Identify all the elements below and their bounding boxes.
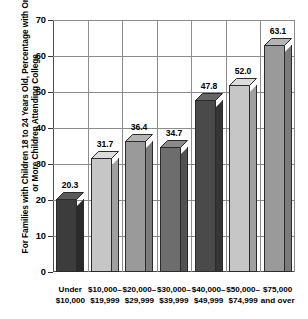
bar-front-face	[125, 141, 146, 272]
bar-side-face	[112, 158, 119, 272]
y-tick-label: 60	[22, 51, 46, 61]
y-tick-mark	[48, 92, 53, 93]
gridline-vertical	[157, 20, 158, 272]
gridline-horizontal	[53, 92, 295, 93]
bar-front-face	[160, 147, 181, 272]
y-tick-label: 70	[22, 15, 46, 25]
bar-side-face	[285, 45, 292, 272]
plot-area: 010203040506070 20.331.736.434.747.852.0…	[53, 20, 295, 272]
x-tick-label-line: and over	[254, 296, 302, 307]
y-tick-mark	[48, 128, 53, 129]
y-tick-label: 50	[22, 87, 46, 97]
y-tick-mark	[48, 20, 53, 21]
bar-side-face	[77, 199, 84, 272]
bar-top-face	[56, 192, 84, 200]
bar-side-face	[250, 85, 257, 272]
bar	[264, 38, 292, 272]
bar	[125, 134, 153, 272]
x-axis-tick-labels: Under$10,000$10,000–$19,999$20,000–$29,9…	[53, 285, 295, 315]
bar-top-face	[125, 134, 153, 142]
bar	[91, 151, 119, 272]
bar-value-label: 52.0	[226, 66, 260, 76]
y-tick-mark	[48, 56, 53, 57]
gridline-vertical	[122, 20, 123, 272]
bar-front-face	[56, 199, 77, 272]
y-tick-mark	[48, 164, 53, 165]
y-tick-mark	[48, 236, 53, 237]
bar-value-label: 31.7	[88, 139, 122, 149]
y-tick-label: 30	[22, 159, 46, 169]
bar	[56, 192, 84, 272]
bar-chart: For Families with Children 18 to 24 Year…	[0, 0, 308, 319]
y-tick-label: 40	[22, 123, 46, 133]
y-axis-line	[53, 20, 54, 272]
y-tick-mark	[48, 200, 53, 201]
bar-value-label: 36.4	[122, 122, 156, 132]
bar-side-face	[146, 141, 153, 272]
bar-value-label: 47.8	[192, 81, 226, 91]
y-tick-label: 20	[22, 195, 46, 205]
bar-front-face	[195, 100, 216, 272]
bar-side-face	[216, 100, 223, 272]
bar-front-face	[229, 85, 250, 272]
x-tick-label: $75,000and over	[254, 285, 302, 306]
gridline-horizontal	[53, 20, 295, 21]
bar	[229, 78, 257, 272]
bar-front-face	[264, 45, 285, 272]
bar-top-face	[195, 93, 223, 101]
bar	[160, 140, 188, 272]
gridline-vertical	[260, 20, 261, 272]
bar-top-face	[91, 151, 119, 159]
bar	[195, 93, 223, 272]
bar-top-face	[229, 78, 257, 86]
bar-value-label: 34.7	[157, 128, 191, 138]
y-tick-label: 0	[22, 267, 46, 277]
bar-front-face	[91, 158, 112, 272]
gridline-horizontal	[53, 56, 295, 57]
bar-top-face	[160, 140, 188, 148]
bar-value-label: 20.3	[53, 180, 87, 190]
gridline-vertical	[226, 20, 227, 272]
y-tick-label: 10	[22, 231, 46, 241]
y-tick-mark	[48, 272, 53, 273]
bar-side-face	[181, 147, 188, 272]
bar-value-label: 63.1	[261, 26, 295, 36]
x-tick-label-line: $75,000	[254, 285, 302, 296]
plot-right-border	[294, 20, 295, 272]
gridline-vertical	[191, 20, 192, 272]
bar-top-face	[264, 38, 292, 46]
